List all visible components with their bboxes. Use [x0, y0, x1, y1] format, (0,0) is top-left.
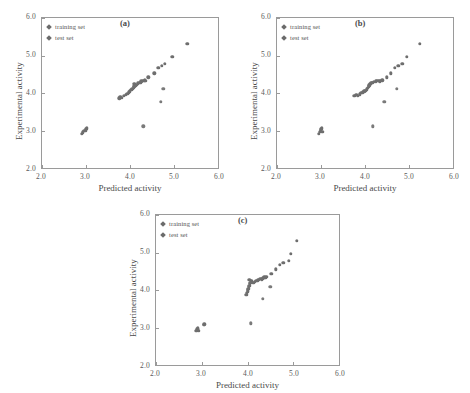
panel-a-y-tick-1: 5.0	[18, 50, 36, 59]
diamond-marker-icon	[160, 232, 166, 238]
data-point	[265, 275, 268, 278]
panel-c: Experimental activity 6.0 5.0 4.0 3.0 2.…	[114, 197, 354, 393]
panel-a-x-axis-title: Predicted activity	[41, 183, 219, 193]
x-tick-mark	[130, 165, 131, 168]
panel-c-y-tick-0: 6.0	[132, 209, 150, 218]
panel-b: Experimental activity 6.0 5.0 4.0 3.0 2.…	[235, 0, 470, 196]
data-point	[147, 76, 150, 79]
data-point	[197, 329, 200, 332]
data-point	[401, 62, 404, 65]
panel-b-x-tick-3: 5.0	[401, 172, 417, 181]
x-tick-mark	[453, 165, 454, 168]
data-point	[405, 55, 408, 58]
diamond-marker-icon	[46, 35, 52, 41]
y-tick-mark	[156, 290, 159, 291]
y-tick-mark	[277, 168, 280, 169]
y-tick-mark	[42, 131, 45, 132]
x-tick-mark	[174, 165, 175, 168]
y-tick-mark	[156, 365, 159, 366]
data-point	[385, 76, 388, 79]
panel-c-label: (c)	[238, 215, 247, 225]
panel-c-x-axis-title: Predicted activity	[155, 380, 340, 390]
data-point	[371, 125, 374, 128]
panel-b-legend: training set test set	[282, 21, 320, 43]
data-point	[295, 239, 298, 242]
diamond-marker-icon	[46, 24, 52, 30]
panel-b-x-axis-title: Predicted activity	[276, 183, 454, 193]
y-tick-mark	[277, 131, 280, 132]
panel-b-x-tick-0: 2.0	[268, 172, 284, 181]
legend-label-test: test set	[55, 34, 74, 41]
data-point	[320, 126, 323, 129]
legend-item-test: test set	[161, 229, 199, 240]
data-point	[85, 126, 88, 129]
panel-c-y-tick-2: 4.0	[132, 285, 150, 294]
data-point	[152, 71, 155, 74]
panel-a-y-tick-0: 6.0	[18, 12, 36, 21]
y-tick-mark	[156, 253, 159, 254]
data-point	[203, 322, 206, 325]
y-tick-mark	[42, 168, 45, 169]
diamond-marker-icon	[281, 35, 287, 41]
data-point	[418, 42, 421, 45]
panel-a-x-tick-0: 2.0	[33, 172, 49, 181]
x-tick-mark	[202, 362, 203, 365]
data-point	[281, 261, 284, 264]
data-point	[261, 297, 264, 300]
data-point	[383, 100, 386, 103]
y-tick-mark	[277, 93, 280, 94]
legend-item-training: training set	[47, 21, 85, 32]
panel-a-x-tick-1: 3.0	[77, 172, 93, 181]
panel-c-x-tick-2: 4.0	[240, 369, 256, 378]
panel-a-legend: training set test set	[47, 21, 85, 43]
data-point	[162, 87, 165, 90]
panel-a-y-tick-3: 3.0	[18, 126, 36, 135]
data-point	[274, 268, 277, 271]
data-point	[269, 285, 272, 288]
panel-c-x-tick-4: 6.0	[332, 369, 348, 378]
legend-item-training: training set	[161, 218, 199, 229]
legend-item-test: test set	[47, 32, 85, 43]
panel-c-y-tick-1: 5.0	[132, 247, 150, 256]
panel-b-label: (b)	[355, 18, 365, 28]
data-point	[144, 79, 147, 82]
data-point	[270, 272, 273, 275]
data-point	[159, 100, 162, 103]
panel-b-y-tick-0: 6.0	[253, 12, 271, 21]
panel-b-plot-frame: (b) training set test set	[276, 17, 454, 169]
y-tick-mark	[277, 56, 280, 57]
panel-a-y-tick-2: 4.0	[18, 88, 36, 97]
diamond-marker-icon	[281, 24, 287, 30]
y-tick-mark	[42, 93, 45, 94]
legend-label-training: training set	[290, 23, 320, 30]
panel-a-plot-frame: (a) training set test set	[41, 17, 219, 169]
data-point	[321, 130, 324, 133]
y-tick-mark	[42, 56, 45, 57]
panel-b-y-tick-1: 5.0	[253, 50, 271, 59]
y-tick-mark	[42, 18, 45, 19]
data-point	[171, 55, 174, 58]
panel-c-x-tick-3: 5.0	[286, 369, 302, 378]
data-point	[389, 71, 392, 74]
panel-b-y-tick-2: 4.0	[253, 88, 271, 97]
legend-label-test: test set	[290, 34, 309, 41]
panel-b-x-tick-2: 4.0	[357, 172, 373, 181]
legend-label-training: training set	[55, 23, 85, 30]
y-tick-mark	[156, 328, 159, 329]
x-tick-mark	[339, 362, 340, 365]
data-point	[397, 64, 400, 67]
legend-label-training: training set	[169, 220, 199, 227]
panel-c-x-tick-0: 2.0	[147, 369, 163, 378]
panel-b-x-tick-1: 3.0	[312, 172, 328, 181]
diamond-marker-icon	[160, 221, 166, 227]
data-point	[380, 79, 383, 82]
panel-b-y-tick-3: 3.0	[253, 126, 271, 135]
panel-a: Experimental activity 6.0 5.0 4.0 3.0 2.…	[0, 0, 235, 196]
x-tick-mark	[409, 165, 410, 168]
legend-label-test: test set	[169, 231, 188, 238]
x-tick-mark	[321, 165, 322, 168]
data-point	[289, 252, 292, 255]
data-point	[287, 259, 290, 262]
data-point	[185, 42, 188, 45]
data-point	[163, 62, 166, 65]
